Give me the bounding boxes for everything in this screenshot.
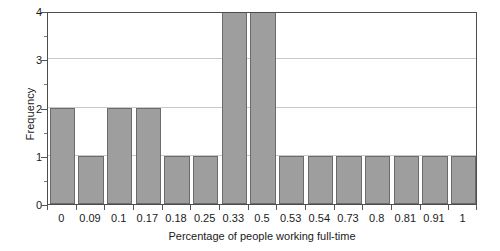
bar-0.25 (193, 156, 219, 204)
x-tick-label-0.25: 0.25 (194, 211, 215, 225)
x-tick-label-0.73: 0.73 (337, 211, 358, 225)
x-tick-label-0.81: 0.81 (395, 211, 416, 225)
bar-0.09 (78, 156, 104, 204)
x-tick-edge-7 (248, 205, 249, 210)
x-tick-edge-13 (420, 205, 421, 210)
x-tick-edge-14 (448, 205, 449, 210)
bar-series (48, 13, 476, 204)
bar-0.17 (136, 108, 162, 205)
bar-0.91 (422, 156, 448, 204)
bar-0.18 (164, 156, 190, 204)
bar-1 (451, 156, 477, 204)
x-tick-edge-8 (276, 205, 277, 210)
x-tick-label-0.1: 0.1 (111, 211, 126, 225)
x-tick-edge-15 (476, 205, 477, 210)
x-tick-edge-1 (76, 205, 77, 210)
bar-0 (50, 108, 76, 205)
y-tick-label-3: 3 (22, 55, 42, 66)
x-tick-label-0: 0 (58, 211, 64, 225)
x-tick-edge-9 (305, 205, 306, 210)
x-tick-edge-10 (334, 205, 335, 210)
y-tick-label-2: 2 (22, 103, 42, 114)
bar-0.73 (336, 156, 362, 204)
bar-0.8 (365, 156, 391, 204)
x-tick-edge-11 (362, 205, 363, 210)
x-axis-tick-labels: 00.090.10.170.180.250.330.50.530.540.730… (47, 211, 477, 227)
x-tick-label-0.5: 0.5 (254, 211, 269, 225)
bar-0.5 (250, 12, 276, 204)
x-tick-label-1: 1 (460, 211, 466, 225)
x-tick-label-0.17: 0.17 (137, 211, 158, 225)
x-tick-label-0.33: 0.33 (223, 211, 244, 225)
x-tick-label-0.53: 0.53 (280, 211, 301, 225)
bar-0.81 (394, 156, 420, 204)
x-tick-label-0.09: 0.09 (79, 211, 100, 225)
bar-0.33 (222, 12, 248, 204)
x-tick-edge-4 (162, 205, 163, 210)
histogram-chart: Frequency 01234 00.090.10.170.180.250.33… (0, 0, 500, 251)
x-tick-label-0.54: 0.54 (309, 211, 330, 225)
x-tick-edge-5 (190, 205, 191, 210)
x-tick-edge-6 (219, 205, 220, 210)
x-axis-title: Percentage of people working full-time (47, 230, 477, 242)
y-tick-label-0: 0 (22, 200, 42, 211)
y-tick-label-4: 4 (22, 7, 42, 18)
bar-0.1 (107, 108, 133, 205)
bar-0.53 (279, 156, 305, 204)
bar-0.54 (308, 156, 334, 204)
x-tick-label-0.18: 0.18 (165, 211, 186, 225)
y-axis-tick-labels: 01234 (22, 12, 42, 205)
x-axis-tick-marks (47, 205, 477, 210)
x-tick-label-0.91: 0.91 (423, 211, 444, 225)
x-tick-edge-0 (47, 205, 48, 210)
x-tick-edge-3 (133, 205, 134, 210)
y-tick-label-1: 1 (22, 151, 42, 162)
x-tick-label-0.8: 0.8 (369, 211, 384, 225)
x-tick-edge-12 (391, 205, 392, 210)
x-tick-edge-2 (104, 205, 105, 210)
plot-area (47, 12, 477, 205)
